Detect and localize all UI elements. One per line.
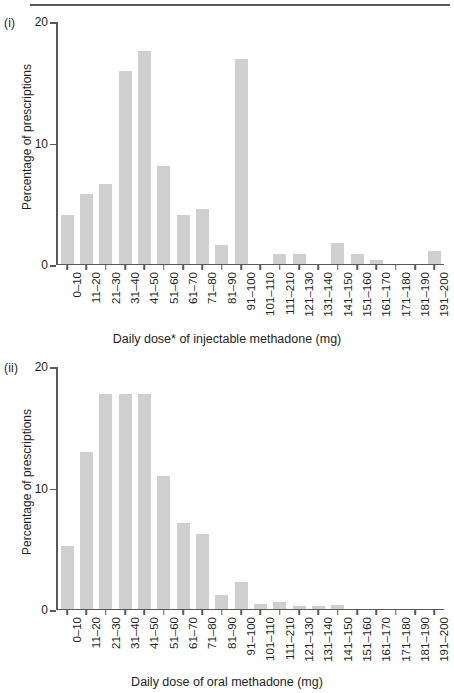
x-tick-label-slot: 111–210: [270, 272, 289, 330]
bar-slot: [270, 368, 289, 609]
bar-slot: [212, 368, 231, 609]
bar: [177, 215, 190, 263]
y-tick-label: 10: [35, 138, 48, 150]
x-tick-mark: [124, 609, 126, 615]
x-tick-mark: [376, 264, 378, 270]
x-tick-mark: [240, 609, 242, 615]
x-tick-mark: [318, 264, 320, 270]
x-tick-mark: [182, 264, 184, 270]
x-tick-label-slot: 61–70: [173, 272, 192, 330]
x-tick-label-slot: 41–50: [135, 272, 154, 330]
bar: [61, 215, 74, 263]
bar-slot: [347, 368, 366, 609]
x-tick-label-slot: 91–100: [231, 617, 250, 675]
y-tick-mark: [50, 265, 56, 267]
bar-slot: [328, 368, 347, 609]
x-tick-label-slot: 31–40: [115, 617, 134, 675]
bar-series-i: [58, 23, 445, 264]
plot-area-i: 01020: [56, 22, 444, 265]
bar-slot: [77, 23, 96, 264]
bar-slot: [96, 23, 115, 264]
bar-slot: [405, 368, 424, 609]
y-tick-mark: [50, 144, 56, 146]
x-tick-mark: [221, 264, 223, 270]
x-tick-label-slot: 51–60: [154, 272, 173, 330]
bar: [157, 166, 170, 264]
x-tick-mark: [376, 609, 378, 615]
bar-slot: [367, 368, 386, 609]
bar-slot: [135, 23, 154, 264]
x-tick-label-slot: 191–200: [425, 272, 444, 330]
x-tick-label-slot: 31–40: [115, 272, 134, 330]
bar: [331, 243, 344, 263]
x-tick-mark: [337, 264, 339, 270]
bar: [293, 254, 306, 264]
x-tick-mark: [202, 609, 204, 615]
x-tick-mark: [337, 609, 339, 615]
x-tick-mark: [144, 264, 146, 270]
x-tick-label-slot: 121–130: [289, 272, 308, 330]
bar-slot: [367, 23, 386, 264]
bar-slot: [425, 368, 444, 609]
x-tick-label-slot: 161–170: [367, 617, 386, 675]
x-tick-mark: [279, 264, 281, 270]
x-tick-label-slot: 0–10: [58, 617, 77, 675]
bar-slot: [115, 23, 134, 264]
x-tick-label-slot: 171–180: [386, 617, 405, 675]
x-tick-mark: [202, 264, 204, 270]
bar: [99, 184, 112, 264]
bar: [196, 209, 209, 263]
bar: [273, 254, 286, 264]
bar: [157, 476, 170, 609]
x-tick-label-slot: 41–50: [135, 617, 154, 675]
x-tick-label-slot: 11–20: [77, 617, 96, 675]
x-tick-mark: [124, 264, 126, 270]
bar-slot: [309, 23, 328, 264]
chart-panel-ii: (ii) Percentage of prescriptions 01020 0…: [0, 355, 454, 693]
y-axis-title-ii: Percentage of prescriptions: [20, 382, 34, 582]
x-tick-label-slot: 71–80: [193, 617, 212, 675]
x-axis-line-i: [56, 264, 444, 266]
x-tick-label: 191–200: [439, 617, 451, 662]
x-tick-label-slot: 21–30: [96, 617, 115, 675]
x-tick-label-slot: 181–190: [405, 272, 424, 330]
y-tick-label: 10: [35, 483, 48, 495]
bar: [119, 394, 132, 608]
x-tick-mark: [395, 609, 397, 615]
bar-slot: [193, 368, 212, 609]
x-tick-mark: [414, 264, 416, 270]
x-axis-title-ii: Daily dose of oral methadone (mg): [0, 675, 454, 689]
panel-label-ii: (ii): [4, 361, 18, 375]
x-tick-mark: [356, 609, 358, 615]
x-tick-label-slot: 91–100: [231, 272, 250, 330]
bar-slot: [173, 23, 192, 264]
bar-slot: [77, 368, 96, 609]
bar: [138, 394, 151, 608]
bar: [61, 546, 74, 609]
x-tick-label-slot: 171–180: [386, 272, 405, 330]
bar-slot: [135, 368, 154, 609]
x-tick-mark: [318, 609, 320, 615]
bar: [351, 254, 364, 264]
y-tick-label: 0: [41, 259, 48, 271]
bar-slot: [251, 23, 270, 264]
x-tick-label-slot: 131–140: [309, 272, 328, 330]
bar: [138, 51, 151, 263]
x-tick-label-slot: 191–200: [425, 617, 444, 675]
bar-slot: [231, 368, 250, 609]
bar-slot: [115, 368, 134, 609]
x-axis-line-ii: [56, 609, 444, 611]
x-tick-mark: [66, 264, 68, 270]
bar-slot: [270, 23, 289, 264]
bar: [196, 534, 209, 609]
x-tick-label-slot: 61–70: [173, 617, 192, 675]
x-tick-labels-ii: 0–1011–2021–3031–4041–5051–6061–7071–808…: [58, 617, 445, 675]
x-tick-label-slot: 161–170: [367, 272, 386, 330]
bar-slot: [58, 23, 77, 264]
x-tick-label-slot: 81–90: [212, 617, 231, 675]
bar: [235, 59, 248, 264]
x-tick-label-slot: 111–210: [270, 617, 289, 675]
bar-slot: [212, 23, 231, 264]
x-tick-label-slot: 181–190: [405, 617, 424, 675]
x-tick-mark: [260, 264, 262, 270]
